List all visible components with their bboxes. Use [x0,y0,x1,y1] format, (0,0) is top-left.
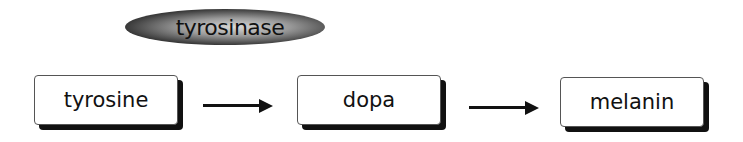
node-tyrosine: tyrosine [34,75,178,125]
node-label: tyrosine [64,88,149,112]
node-label: melanin [590,90,675,114]
node-melanin: melanin [560,77,704,127]
arrow-right-icon [203,99,273,113]
node-label: dopa [343,88,395,112]
arrow-right-icon [469,101,539,115]
node-dopa: dopa [297,75,441,125]
enzyme-ellipse: tyrosinase [125,9,325,45]
enzyme-label: tyrosinase [176,15,285,40]
